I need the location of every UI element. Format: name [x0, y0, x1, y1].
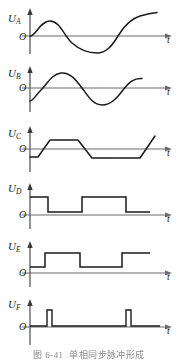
axis-label-uf: UF — [8, 299, 21, 312]
waveform-curve-ud — [30, 197, 150, 212]
origin-label-ua: O — [19, 32, 26, 42]
axis-label-ub: UB — [8, 68, 21, 81]
axis-label-uc: UC — [8, 128, 21, 141]
origin-label-ud: O — [19, 210, 26, 220]
t-axis-label-uf: t — [167, 326, 170, 336]
figure-single-phase-sync-pulse: UA O t UB O t UC O t — [0, 0, 178, 363]
waveform-curve-ue — [30, 253, 150, 267]
waveform-panel-uc: UC O t — [0, 120, 178, 177]
waveform-plot-ud — [0, 177, 178, 234]
figure-caption-text: 单相同步脉冲形成 — [69, 350, 144, 360]
waveform-plot-uf — [0, 293, 178, 350]
waveform-panel-uf: UF O t — [0, 293, 178, 350]
waveform-panel-ua: UA O t — [0, 2, 178, 59]
y-axis-arrowhead — [27, 8, 32, 15]
waveform-plot-ua — [0, 2, 178, 59]
waveform-curve-ub — [30, 73, 142, 105]
t-axis-label-ua: t — [167, 35, 170, 45]
t-axis-label-ue: t — [167, 272, 170, 282]
y-axis-arrowhead — [27, 299, 32, 306]
figure-caption-number: 图 6-41 — [33, 350, 63, 360]
axis-label-ue: UE — [8, 241, 21, 254]
y-axis-arrowhead — [27, 126, 32, 133]
waveform-curve-uf — [30, 310, 160, 326]
waveform-plot-ub — [0, 60, 178, 117]
waveform-panel-ud: UD O t — [0, 177, 178, 234]
t-axis-label-ub: t — [167, 87, 170, 97]
origin-label-uc: O — [19, 144, 26, 154]
waveform-plot-uc — [0, 120, 178, 177]
waveform-panel-ub: UB O t — [0, 60, 178, 117]
origin-label-ue: O — [19, 268, 26, 278]
y-axis-arrowhead — [27, 183, 32, 190]
waveform-plot-ue — [0, 235, 178, 292]
waveform-panel-ue: UE O t — [0, 235, 178, 292]
t-axis-label-uc: t — [167, 148, 170, 158]
origin-label-ub: O — [19, 83, 26, 93]
y-axis-arrowhead — [27, 66, 32, 73]
figure-caption: 图 6-41单相同步脉冲形成 — [0, 348, 178, 361]
t-axis-label-ud: t — [167, 214, 170, 224]
waveform-curve-uc — [30, 136, 155, 158]
waveform-curve-ua — [30, 13, 157, 54]
y-axis-arrowhead — [27, 241, 32, 248]
axis-label-ua: UA — [8, 13, 21, 26]
origin-label-uf: O — [19, 322, 26, 332]
axis-label-ud: UD — [8, 183, 21, 196]
